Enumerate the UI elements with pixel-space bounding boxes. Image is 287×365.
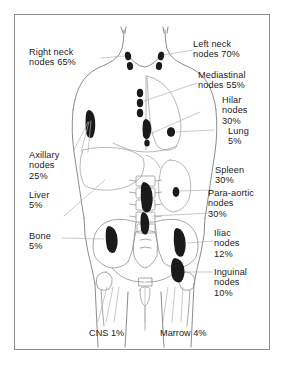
transverse-process-left xyxy=(129,180,136,217)
label-spleen: Spleen30% xyxy=(215,165,244,186)
label-inguinal-line1: Inguinal xyxy=(214,267,247,277)
label-inguinal-line3: 10% xyxy=(214,288,233,298)
leader-para-aortic xyxy=(153,213,210,216)
abdominal-organs-group xyxy=(80,147,191,212)
femur-head-left xyxy=(96,272,112,290)
node-spleen xyxy=(173,187,180,197)
spleen-outline xyxy=(158,160,190,212)
node-para-aortic-lower xyxy=(141,212,150,235)
label-spleen-line1: Spleen xyxy=(215,165,244,175)
label-hilar-line3: 30% xyxy=(222,116,241,126)
label-left-neck-line1: Left neck xyxy=(193,39,231,49)
label-para-aortic-line3: 30% xyxy=(208,209,227,219)
leader-marrow-c xyxy=(172,287,175,322)
leader-axillary-b xyxy=(81,122,89,152)
label-para-aortic-nodes: Para-aorticnodes30% xyxy=(208,188,254,219)
torso-left-side xyxy=(72,110,84,218)
label-liver-line1: Liver xyxy=(29,190,49,200)
neck-right-outline xyxy=(165,30,184,65)
liver-outline xyxy=(80,147,144,190)
label-lung-line2: 5% xyxy=(228,136,241,146)
figure-root: Right necknodes 65% Left necknodes 70% M… xyxy=(0,0,287,365)
shoulder-left xyxy=(73,65,105,110)
node-mediastinal-3 xyxy=(137,109,143,117)
label-left-neck-nodes: Left necknodes 70% xyxy=(193,39,240,60)
leader-marrow-b xyxy=(163,287,168,322)
leader-cns-b xyxy=(106,287,113,322)
node-right-neck-lower xyxy=(126,62,133,71)
node-lung xyxy=(167,127,175,137)
label-right-neck-line1: Right neck xyxy=(29,47,73,57)
sacral-detail xyxy=(140,239,151,248)
lymph-node-group xyxy=(86,51,186,282)
label-hilar-line2: nodes xyxy=(222,105,248,115)
leader-cns-c xyxy=(114,287,119,322)
leader-hilar xyxy=(150,112,200,134)
label-lung: Lung5% xyxy=(228,126,249,147)
node-iliac-right xyxy=(174,228,186,257)
leader-right-neck xyxy=(101,56,124,58)
leader-mediastinal xyxy=(144,83,197,101)
label-axillary-line3: 25% xyxy=(29,171,48,181)
label-mediastinal-line2: nodes 55% xyxy=(198,80,245,90)
femur-shaft-right xyxy=(187,290,190,326)
label-right-neck-nodes: Right necknodes 65% xyxy=(29,47,76,68)
label-cns: CNS 1% xyxy=(89,328,124,338)
label-hilar-nodes: Hilarnodes30% xyxy=(222,95,248,126)
label-iliac-line1: Iliac xyxy=(214,228,231,238)
leader-marrow-d xyxy=(181,287,183,322)
label-liver-line2: 5% xyxy=(29,200,42,210)
node-right-neck-upper xyxy=(124,51,132,61)
leader-bone xyxy=(62,238,104,239)
label-bone-line1: Bone xyxy=(29,231,51,241)
label-inguinal-line2: nodes xyxy=(214,277,240,287)
label-right-neck-line2: nodes 65% xyxy=(29,57,76,67)
label-para-aortic-line1: Para-aortic xyxy=(208,188,254,198)
label-axillary-line1: Axillary xyxy=(29,150,59,160)
node-hilar xyxy=(144,139,149,146)
label-iliac-line2: nodes xyxy=(214,238,240,248)
label-spleen-line2: 30% xyxy=(215,175,234,185)
node-para-aortic-upper xyxy=(141,182,153,212)
label-lung-line1: Lung xyxy=(228,126,249,136)
label-liver: Liver5% xyxy=(29,190,49,211)
label-hilar-line1: Hilar xyxy=(222,95,241,105)
neck-left-outline xyxy=(105,30,124,65)
label-mediastinal-nodes: Mediastinalnodes 55% xyxy=(198,70,246,91)
label-iliac-nodes: Iliacnodes12% xyxy=(214,228,240,259)
sacrum-outline xyxy=(133,231,157,269)
label-para-aortic-line2: nodes xyxy=(208,198,234,208)
label-marrow: Marrow 4% xyxy=(160,328,206,338)
node-left-neck-upper xyxy=(157,51,165,61)
label-bone: Bone5% xyxy=(29,231,51,252)
label-mediastinal-line1: Mediastinal xyxy=(198,70,246,80)
hip-right xyxy=(194,218,205,284)
lung-right-outline xyxy=(147,76,181,150)
node-inguinal-right xyxy=(171,258,185,282)
label-inguinal-nodes: Inguinalnodes10% xyxy=(214,267,247,298)
node-mediastinal-1 xyxy=(137,89,143,97)
leg-left-inner xyxy=(125,292,128,347)
node-mediastinal-2 xyxy=(137,99,143,107)
label-left-neck-line2: nodes 70% xyxy=(193,49,240,59)
node-bone-left-ilium xyxy=(106,226,118,253)
label-axillary-nodes: Axillarynodes25% xyxy=(29,150,59,181)
node-left-neck-lower xyxy=(155,62,162,71)
leader-axillary-a xyxy=(74,122,88,150)
label-bone-line2: 5% xyxy=(29,241,42,251)
leader-iliac xyxy=(188,241,213,243)
stomach-hint xyxy=(146,155,160,168)
label-iliac-line3: 12% xyxy=(214,249,233,259)
leader-cns-a xyxy=(98,287,107,322)
label-axillary-line2: nodes xyxy=(29,160,55,170)
leader-lung xyxy=(176,130,214,132)
